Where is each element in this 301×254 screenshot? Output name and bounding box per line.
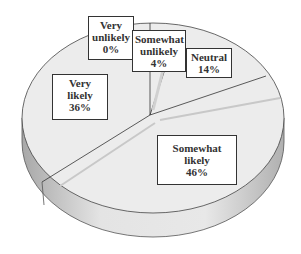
label-text: likely (160, 154, 234, 166)
label-value: 0% (91, 43, 131, 55)
label-text: Neutral (189, 51, 229, 63)
label-value: 46% (160, 166, 234, 178)
label-neutral: Neutral 14% (186, 48, 232, 78)
label-text: likely (55, 89, 105, 101)
label-value: 36% (55, 101, 105, 113)
label-somewhat-unlikely: Somewhat unlikely 4% (132, 30, 186, 72)
label-text: unlikely (135, 45, 183, 57)
label-somewhat-likely: Somewhat likely 46% (157, 135, 237, 185)
label-very-unlikely: Very unlikely 0% (88, 16, 134, 60)
label-very-likely: Very likely 36% (52, 74, 108, 120)
label-text: Somewhat (135, 33, 183, 45)
label-text: Very (55, 77, 105, 89)
label-value: 14% (189, 63, 229, 75)
label-text: unlikely (91, 31, 131, 43)
label-value: 4% (135, 57, 183, 69)
label-text: Somewhat (160, 142, 234, 154)
label-text: Very (91, 19, 131, 31)
